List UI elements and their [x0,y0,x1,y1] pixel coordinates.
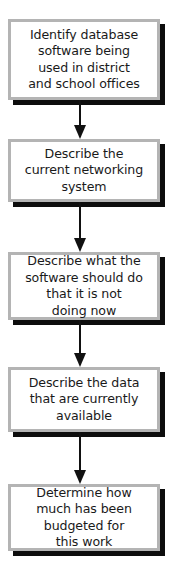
arrow-head-icon [74,238,86,252]
arrow-head-icon [74,353,86,367]
flowchart-node-2: Describe the current networking system [8,139,160,202]
flowchart-canvas: Identify database software being used in… [0,0,173,583]
flowchart-node-4: Describe the data that are currently ava… [8,367,160,432]
flowchart-arrow-1 [74,100,87,139]
flowchart-node-5: Determine how much has been budgeted for… [8,484,160,551]
arrow-shaft-icon [79,320,81,353]
flowchart-node-4-label: Describe the data that are currently ava… [11,375,157,425]
arrow-shaft-icon [79,432,81,470]
flowchart-node-1-label: Identify database software being used in… [11,27,157,93]
flowchart-node-5-label: Determine how much has been budgeted for… [11,485,157,551]
arrow-head-icon [74,125,86,139]
arrow-shaft-icon [79,100,81,125]
arrow-shaft-icon [79,202,81,238]
flowchart-arrow-3 [74,320,87,367]
arrow-head-icon [74,470,86,484]
flowchart-node-2-label: Describe the current networking system [11,146,157,196]
flowchart-node-3: Describe what the software should do tha… [8,252,160,320]
flowchart-node-3-label: Describe what the software should do tha… [11,253,157,319]
flowchart-node-1: Identify database software being used in… [8,19,160,100]
flowchart-arrow-2 [74,202,87,252]
flowchart-arrow-4 [74,432,87,484]
